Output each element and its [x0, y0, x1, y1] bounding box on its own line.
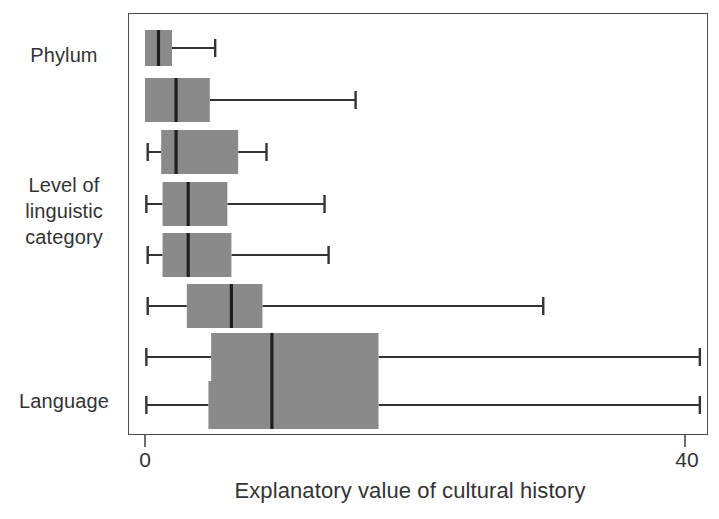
plot-frame: [128, 13, 708, 435]
boxplot-figure: Phylum Level of linguistic category Lang…: [0, 0, 719, 519]
x-axis-ticks: [145, 435, 685, 447]
y-group-label-level-of-linguistic-category: Level of linguistic category: [6, 172, 122, 250]
y-group-label-language-line: Language: [6, 388, 122, 414]
y-group-label-level-line-1: Level of: [6, 172, 122, 198]
x-axis-title: Explanatory value of cultural history: [120, 478, 700, 504]
y-group-label-language: Language: [6, 388, 122, 414]
y-group-label-phylum-line: Phylum: [6, 42, 122, 68]
x-tick-label-40: 40: [664, 448, 710, 472]
y-group-label-level-line-3: category: [6, 224, 122, 250]
x-tick-label-0: 0: [125, 448, 165, 472]
y-group-label-phylum: Phylum: [6, 42, 122, 68]
y-group-label-level-line-2: linguistic: [6, 198, 122, 224]
